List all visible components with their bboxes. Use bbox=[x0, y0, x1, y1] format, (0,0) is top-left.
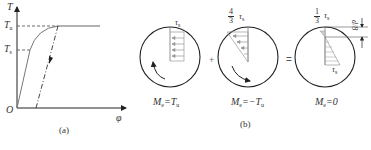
tu-tick-label: Tu bbox=[4, 20, 13, 31]
loading-curve bbox=[17, 26, 58, 108]
circle-1-full-plastic bbox=[140, 27, 200, 87]
circle-3-stress-label-bottom: τs bbox=[332, 66, 337, 75]
ccw-rotation-arrow-icon bbox=[153, 62, 165, 79]
circle-2-stress-label: τs bbox=[239, 13, 244, 22]
circle-3-stress-label-top: τs bbox=[324, 12, 329, 21]
circle-2-fraction: 43 bbox=[228, 8, 234, 25]
circle-2-elastic-unload bbox=[218, 27, 278, 87]
x-axis-label: φ bbox=[116, 113, 122, 123]
circle-2-moment-label: Me=−Tu bbox=[231, 97, 264, 108]
circle-1-moment-label: Me=Tu bbox=[153, 97, 179, 108]
unloading-line bbox=[36, 26, 58, 108]
panel-a-graph bbox=[17, 7, 126, 108]
circle-1-stress-label: τs bbox=[175, 19, 180, 28]
dimension-label: d/8 bbox=[350, 20, 358, 30]
origin-label: O bbox=[6, 105, 13, 115]
plus-operator: + bbox=[209, 55, 214, 65]
unloading-arrow-icon bbox=[49, 56, 53, 64]
circle-3-fraction: 13 bbox=[314, 8, 320, 25]
cw-rotation-arrow-icon bbox=[232, 66, 250, 81]
circle-3-moment-label: Me=0 bbox=[315, 97, 338, 108]
y-axis-label: T bbox=[7, 2, 13, 12]
ts-tick-label: Ts bbox=[4, 44, 12, 55]
panel-a-caption: (a) bbox=[59, 126, 69, 135]
equals-operator: = bbox=[286, 54, 292, 65]
panel-b-caption: (b) bbox=[240, 120, 251, 129]
